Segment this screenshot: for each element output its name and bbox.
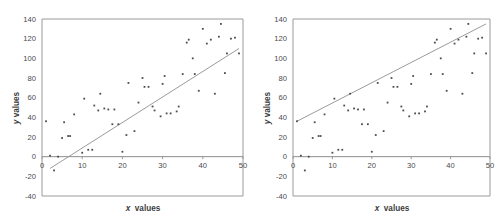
data-point [218,36,220,38]
data-point [363,109,365,111]
data-point [471,72,473,74]
data-point [192,57,194,59]
y-tick-label: -20 [25,172,36,181]
data-point [440,57,442,59]
data-point [426,106,428,108]
plot-frame-right [293,19,490,196]
data-point [57,156,59,158]
data-point [442,73,444,75]
data-point [198,90,200,92]
scatter-plot-figure: -40-20020406080100120140 01020304050 x v… [0,0,504,220]
x-tick-label: 10 [328,161,336,170]
data-point [481,37,483,39]
x-tick-label: 40 [446,161,454,170]
data-point [308,156,310,158]
chart-svg-right: -40-20020406080100120140 01020304050 x v… [252,0,504,220]
x-tick-label: 20 [118,161,126,170]
data-point [391,77,393,79]
data-point [91,149,93,151]
y-tick-label: -40 [276,192,287,201]
data-point [477,38,479,40]
data-point [128,82,130,84]
y-tick-label: 140 [274,15,287,24]
data-points-left [45,23,240,171]
y-tick-label: 20 [279,133,287,142]
data-point [170,113,172,115]
data-point [67,135,69,137]
x-tick-labels-left: 01020304050 [40,157,247,170]
data-point [69,135,71,137]
data-point [375,134,377,136]
data-point [224,72,226,74]
data-point [230,38,232,40]
data-point [81,152,83,154]
x-tick-label: 30 [407,161,415,170]
data-point [142,77,144,79]
y-tick-label: 60 [28,93,36,102]
data-point [73,113,75,115]
x-axis-title-left: x values [125,204,161,213]
data-point [412,75,414,77]
data-point [320,135,322,137]
data-point [408,115,410,117]
data-point [234,37,236,39]
data-point [446,90,448,92]
y-tick-label: 0 [32,152,36,161]
data-point [341,149,343,151]
y-tick-label: 100 [274,54,287,63]
data-point [465,36,467,38]
y-tick-label: 100 [23,54,36,63]
data-point [138,102,140,104]
data-point [304,170,306,172]
data-point [332,152,334,154]
y-tick-labels-left: -40-20020406080100120140 [23,15,36,201]
y-tick-label: 80 [28,74,36,83]
data-point [166,113,168,115]
trend-line [297,24,486,121]
data-point [176,111,178,113]
x-tick-label: 0 [40,161,44,170]
y-tick-label: 0 [283,152,287,161]
data-point [357,109,359,111]
data-point [454,43,456,45]
data-point [99,93,101,95]
data-point [45,120,47,122]
data-point [436,39,438,41]
data-point [202,28,204,30]
data-point [111,123,113,125]
data-point [238,53,240,55]
data-point [462,93,464,95]
chart-panel-right: -40-20020406080100120140 01020304050 x v… [252,0,504,220]
data-point [402,110,404,112]
data-point [337,149,339,151]
data-point [458,39,460,41]
data-point [160,115,162,117]
data-point [206,43,208,45]
chart-panel-left: -40-20020406080100120140 01020304050 x v… [0,0,252,220]
data-points-right [296,23,487,171]
data-point [467,23,469,25]
data-point [367,123,369,125]
data-point [148,86,150,88]
data-point [214,93,216,95]
data-point [186,42,188,44]
data-point [387,102,389,104]
data-point [164,75,166,77]
data-point [324,113,326,115]
data-point [400,106,402,108]
y-tick-label: 120 [23,34,36,43]
data-point [343,105,345,107]
data-point [144,86,146,88]
data-point [122,151,124,153]
x-axis-title-right: x values [374,204,410,213]
data-point [349,93,351,95]
data-point [312,137,314,139]
data-point [162,83,164,85]
y-tick-label: 40 [279,113,287,122]
data-point [117,123,119,125]
data-point [103,108,105,110]
data-point [53,170,55,172]
data-point [194,73,196,75]
x-tick-label: 50 [486,161,494,170]
data-point [430,73,432,75]
